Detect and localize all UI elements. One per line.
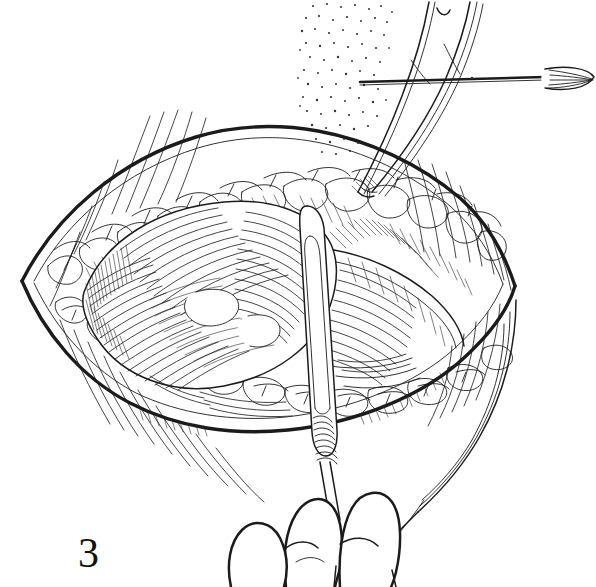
figure-number: 3 xyxy=(78,531,99,575)
surgical-illustration-canvas xyxy=(0,0,596,587)
surgical-figure: 3 xyxy=(0,0,596,587)
